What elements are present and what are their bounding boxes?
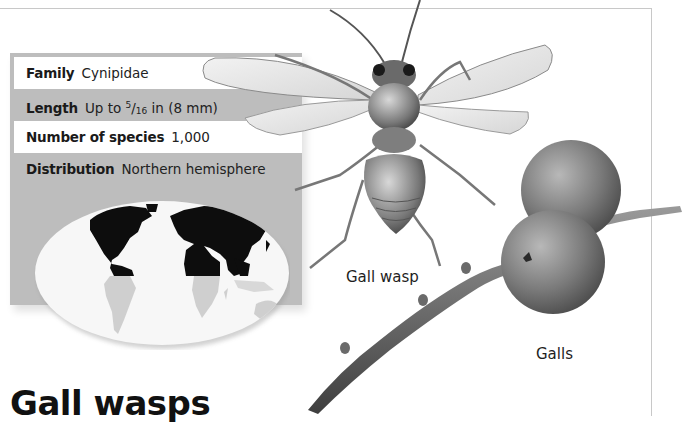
page-title: Gall wasps	[10, 383, 210, 423]
caption-gall-wasp: Gall wasp	[346, 268, 419, 286]
gall-wasp-illustration	[203, 0, 552, 268]
caption-galls: Galls	[536, 345, 573, 363]
